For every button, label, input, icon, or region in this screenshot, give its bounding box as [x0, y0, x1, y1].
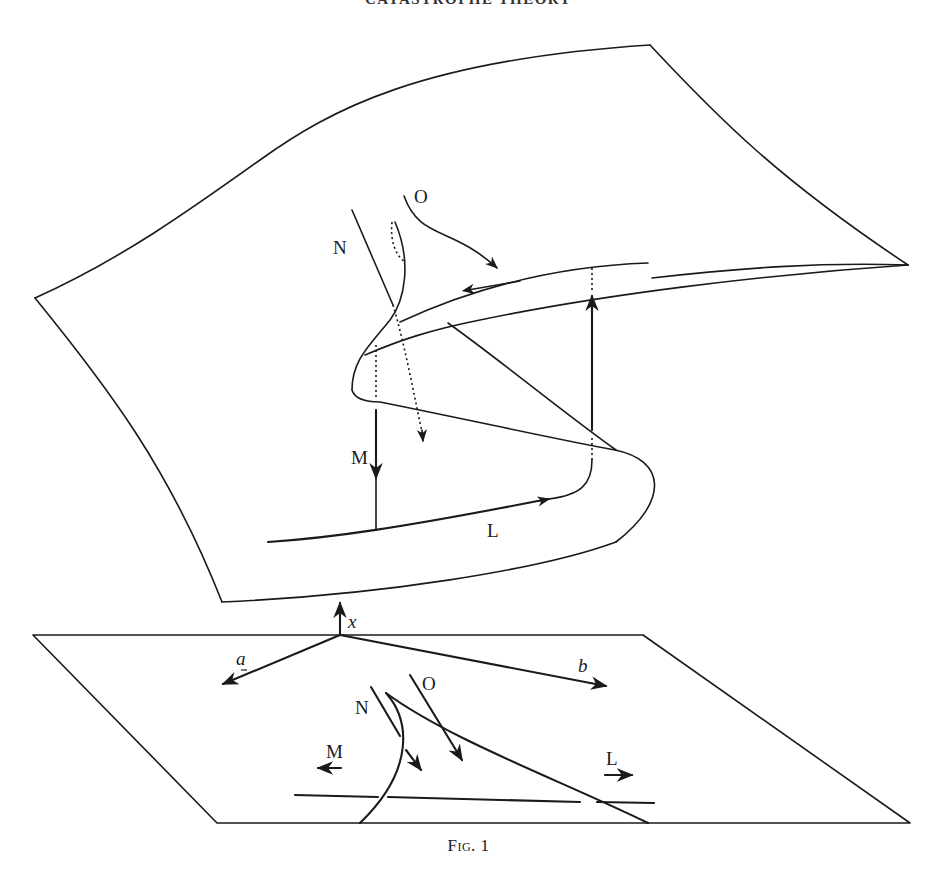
surface-right-edge	[650, 45, 908, 265]
path-L	[268, 499, 548, 542]
plane-path-L-left	[295, 795, 378, 797]
cusp-catastrophe-figure: O N M L x a b N O M L	[0, 0, 937, 888]
path-N	[352, 210, 393, 305]
fold-hidden-dotted	[392, 222, 405, 262]
path-N-dotted	[393, 305, 423, 437]
surface-label-O: O	[414, 186, 428, 207]
plane-path-N-arrow	[406, 750, 421, 770]
pleat-fold-lower	[352, 390, 655, 542]
axis-b	[340, 635, 606, 686]
path-upper-arrow	[468, 281, 520, 290]
surface-label-L: L	[487, 520, 499, 541]
control-plane: x a b N O M L	[33, 603, 910, 823]
pleat-inner-fold	[448, 323, 616, 450]
path-N-arrow	[422, 430, 423, 441]
surface-left-edge	[35, 298, 222, 602]
plane-path-L-mid	[388, 797, 580, 802]
pleat-fold-curve	[352, 222, 405, 390]
path-L-curve	[549, 460, 592, 499]
fold-upper-lip	[400, 263, 648, 322]
plane-path-L-right	[597, 802, 654, 803]
behaviour-surface: O N M L	[35, 45, 908, 602]
axis-label-a: a	[236, 648, 246, 669]
surface-bottom-edge	[222, 542, 616, 602]
plane-outline	[33, 635, 910, 823]
plane-label-L: L	[606, 748, 618, 769]
surface-label-M: M	[351, 447, 368, 468]
plane-path-O	[410, 675, 462, 760]
axis-label-x: x	[347, 611, 357, 632]
plane-label-O: O	[422, 673, 436, 694]
surface-label-N: N	[333, 237, 347, 258]
plane-path-N	[371, 687, 400, 736]
plane-label-N: N	[355, 697, 369, 718]
figure-caption: Fig. 1	[0, 836, 937, 856]
plane-label-M: M	[326, 741, 343, 762]
axis-label-b: b	[578, 655, 588, 676]
fold-upper-edge	[365, 265, 908, 355]
surface-top-edge	[35, 45, 650, 298]
